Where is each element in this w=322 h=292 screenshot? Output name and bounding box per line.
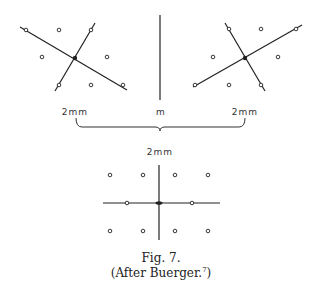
lattice-point bbox=[259, 27, 263, 31]
lattice-point bbox=[294, 27, 298, 31]
lattice-point bbox=[173, 229, 177, 233]
lattice-point bbox=[105, 55, 109, 59]
lattice-point bbox=[173, 173, 177, 177]
lattice-point bbox=[40, 55, 44, 59]
source-prefix: (After Buerger. bbox=[111, 266, 202, 280]
crystal-lattice-figure bbox=[0, 0, 322, 292]
right-lattice-diagram bbox=[193, 23, 302, 91]
curly-brace bbox=[76, 118, 245, 131]
lattice-point bbox=[57, 28, 61, 32]
lattice-point bbox=[190, 201, 194, 205]
bottom-lattice-diagram bbox=[103, 165, 220, 240]
mirror-label: m bbox=[156, 107, 166, 117]
lattice-point bbox=[211, 55, 215, 59]
lattice-point bbox=[227, 27, 231, 31]
lattice-point bbox=[141, 173, 145, 177]
lattice-point bbox=[206, 229, 210, 233]
center-point bbox=[73, 56, 77, 60]
lattice-point bbox=[259, 83, 263, 87]
lattice-point bbox=[89, 28, 93, 32]
center-point bbox=[156, 201, 163, 205]
lattice-point bbox=[108, 173, 112, 177]
lattice-point bbox=[24, 28, 28, 32]
lattice-point bbox=[227, 83, 231, 87]
figure-source: (After Buerger.7) bbox=[111, 266, 212, 280]
center-point bbox=[243, 56, 247, 60]
lattice-point bbox=[108, 229, 112, 233]
lattice-point bbox=[125, 201, 129, 205]
combined-scale-label: 2mm bbox=[147, 147, 173, 157]
figure-number: Fig. 7. bbox=[142, 251, 181, 265]
lattice-point bbox=[57, 83, 61, 87]
lattice-point bbox=[276, 55, 280, 59]
lattice-point bbox=[141, 229, 145, 233]
lattice-point bbox=[121, 83, 125, 87]
axis-line bbox=[193, 25, 302, 87]
left-lattice-diagram bbox=[20, 23, 127, 91]
lattice-point bbox=[193, 83, 197, 87]
left-scale-label: 2mm bbox=[62, 107, 88, 117]
source-suffix: ) bbox=[207, 266, 212, 280]
lattice-point bbox=[89, 83, 93, 87]
lattice-point bbox=[206, 173, 210, 177]
right-scale-label: 2mm bbox=[232, 107, 258, 117]
